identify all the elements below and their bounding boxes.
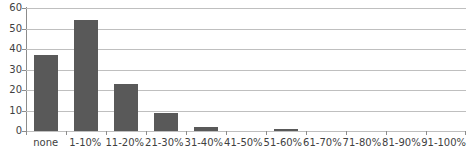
bar-slot — [266, 8, 306, 131]
bar — [154, 113, 177, 131]
bar-slot — [66, 8, 106, 131]
x-axis-tick-mark — [266, 131, 306, 135]
bar-series — [26, 8, 466, 131]
x-axis-tick-mark — [26, 131, 66, 135]
bar-slot — [146, 8, 186, 131]
bar-slot — [386, 8, 426, 131]
x-axis-tick-label: 91-100% — [421, 136, 466, 152]
x-axis-tick-mark — [146, 131, 186, 135]
x-axis-tick-label: 31-40% — [184, 136, 224, 152]
bar-slot — [346, 8, 386, 131]
x-axis-tick-label: none — [26, 136, 66, 152]
x-axis-tick-mark — [306, 131, 346, 135]
y-axis-ticks — [0, 0, 26, 140]
x-axis-ticks — [26, 131, 466, 135]
x-axis-tick-label: 41-50% — [224, 136, 264, 152]
bar-slot — [106, 8, 146, 131]
bar-slot — [226, 8, 266, 131]
bar-slot — [186, 8, 226, 131]
x-axis-tick-label: 1-10% — [66, 136, 106, 152]
x-axis-tick-mark — [66, 131, 106, 135]
x-axis-labels: none1-10%11-20%21-30%31-40%41-50%51-60%6… — [26, 136, 466, 152]
bar — [74, 20, 97, 131]
x-axis-tick-mark — [226, 131, 266, 135]
bar-slot — [306, 8, 346, 131]
x-axis-tick-mark — [186, 131, 226, 135]
x-axis-tick-mark — [106, 131, 146, 135]
bar — [34, 55, 57, 131]
bar-slot — [426, 8, 466, 131]
bar — [114, 84, 137, 131]
x-axis-tick-mark — [346, 131, 386, 135]
x-axis-tick-mark — [386, 131, 426, 135]
x-axis-tick-label: 71-80% — [342, 136, 382, 152]
x-axis-tick-label: 21-30% — [145, 136, 185, 152]
plot-area — [26, 8, 466, 131]
bar-slot — [26, 8, 66, 131]
x-axis-tick-label: 11-20% — [105, 136, 145, 152]
x-axis-tick-label: 61-70% — [303, 136, 343, 152]
x-axis-tick-label: 51-60% — [263, 136, 303, 152]
x-axis-tick-label: 81-90% — [382, 136, 422, 152]
x-axis-tick-mark — [426, 131, 466, 135]
bar-chart: 0102030405060 none1-10%11-20%21-30%31-40… — [0, 0, 469, 153]
